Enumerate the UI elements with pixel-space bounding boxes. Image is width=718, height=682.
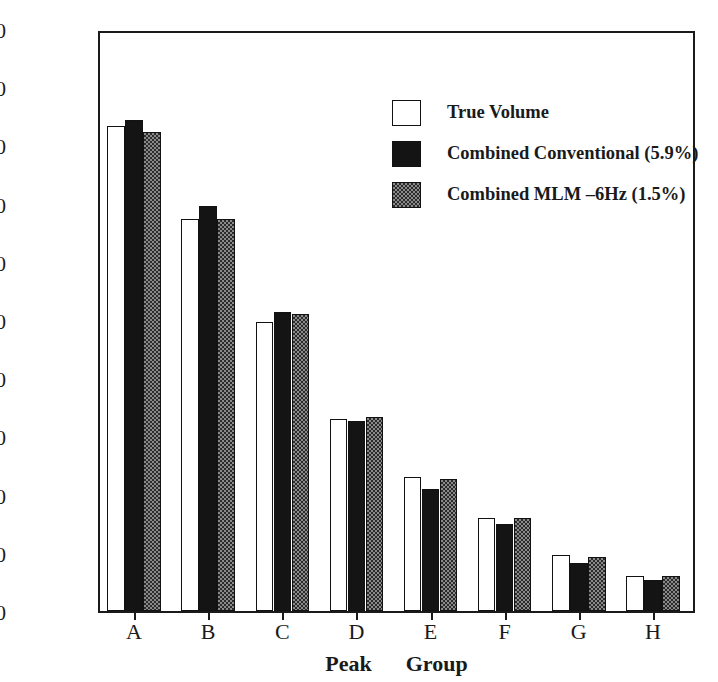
bar-G-series-2[interactable] <box>570 563 588 612</box>
x-tick-mark-D <box>356 611 358 620</box>
bar-A-series-1[interactable] <box>107 126 125 611</box>
x-tick-mark-E <box>431 611 433 620</box>
y-tick-label-210: 210 <box>0 195 6 216</box>
bar-E-series-1[interactable] <box>404 477 422 611</box>
bar-A-series-3[interactable] <box>143 132 161 611</box>
x-tick-mark-C <box>282 611 284 620</box>
x-tick-label-G: G <box>549 619 609 645</box>
bar-G-series-1[interactable] <box>552 555 570 611</box>
x-axis-title-word-1: Peak <box>325 651 371 676</box>
x-tick-label-H: H <box>623 619 683 645</box>
legend-item-3[interactable]: Combined MLM –6Hz (1.5%) <box>392 174 698 215</box>
y-tick-label-120: 120 <box>0 370 6 391</box>
legend-swatch-3 <box>392 182 421 208</box>
legend-label-3: Combined MLM –6Hz (1.5%) <box>447 184 685 205</box>
chart-legend: True VolumeCombined Conventional (5.9%)C… <box>392 92 698 215</box>
bar-C-series-2[interactable] <box>274 312 292 611</box>
legend-label-2: Combined Conventional (5.9%) <box>447 143 698 164</box>
bar-H-series-3[interactable] <box>662 576 680 611</box>
bar-G-series-3[interactable] <box>588 557 606 611</box>
x-tick-label-A: A <box>104 619 164 645</box>
x-tick-label-C: C <box>252 619 312 645</box>
bar-E-series-2[interactable] <box>422 489 440 611</box>
bar-C-series-3[interactable] <box>292 314 310 611</box>
bar-C-series-1[interactable] <box>256 322 274 611</box>
y-tick-label-300: 300 <box>0 21 6 42</box>
bar-F-series-3[interactable] <box>514 518 532 611</box>
bar-group-B <box>181 33 235 611</box>
x-axis-title: PeakGroup <box>98 651 695 677</box>
legend-item-1[interactable]: True Volume <box>392 92 698 133</box>
bar-D-series-2[interactable] <box>348 421 366 611</box>
x-tick-mark-H <box>653 611 655 620</box>
bar-B-series-2[interactable] <box>199 206 217 611</box>
bar-F-series-1[interactable] <box>478 518 496 611</box>
x-tick-label-F: F <box>475 619 535 645</box>
bar-group-C <box>256 33 310 611</box>
legend-swatch-1 <box>392 100 421 126</box>
bar-H-series-1[interactable] <box>626 576 644 611</box>
y-tick-label-150: 150 <box>0 312 6 333</box>
legend-swatch-2 <box>392 141 421 167</box>
bar-E-series-3[interactable] <box>440 479 458 611</box>
x-tick-mark-A <box>134 611 136 620</box>
bar-A-series-2[interactable] <box>125 120 143 611</box>
x-tick-mark-F <box>505 611 507 620</box>
bar-D-series-1[interactable] <box>330 419 348 611</box>
y-tick-label-240: 240 <box>0 137 6 158</box>
y-tick-label-90: 90 <box>0 428 6 449</box>
y-tick-label-0: 0 <box>0 603 6 624</box>
x-tick-label-D: D <box>326 619 386 645</box>
bar-H-series-2[interactable] <box>644 580 662 611</box>
bar-group-D <box>330 33 384 611</box>
bar-B-series-3[interactable] <box>217 219 235 611</box>
legend-item-2[interactable]: Combined Conventional (5.9%) <box>392 133 698 174</box>
x-axis-title-word-2: Group <box>406 651 468 676</box>
x-tick-mark-B <box>208 611 210 620</box>
bar-chart-figure: Normalized Peak–Volume 03060901201501802… <box>0 0 718 682</box>
x-tick-label-B: B <box>178 619 238 645</box>
legend-label-1: True Volume <box>447 102 549 123</box>
y-tick-label-60: 60 <box>0 486 6 507</box>
bar-group-A <box>107 33 161 611</box>
y-tick-label-30: 30 <box>0 544 6 565</box>
y-tick-label-180: 180 <box>0 253 6 274</box>
bar-B-series-1[interactable] <box>181 219 199 611</box>
bar-D-series-3[interactable] <box>366 417 384 611</box>
y-tick-label-270: 270 <box>0 79 6 100</box>
bar-F-series-2[interactable] <box>496 524 514 611</box>
x-tick-label-E: E <box>401 619 461 645</box>
x-tick-mark-G <box>579 611 581 620</box>
